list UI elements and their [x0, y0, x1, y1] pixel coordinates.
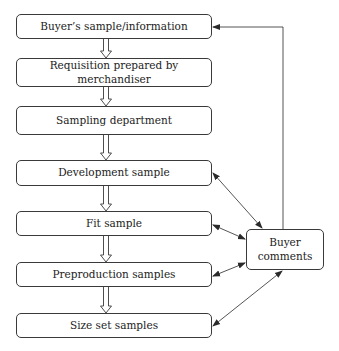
- arrow-development-comments: [213, 173, 262, 228]
- hollow-arrow-5: [101, 236, 112, 262]
- hollow-arrow-1: [101, 39, 112, 58]
- node-requisition: Requisition prepared by merchandiser: [16, 58, 212, 87]
- node-development-sample: Development sample: [16, 160, 212, 186]
- node-sampling-department: Sampling department: [16, 106, 212, 135]
- arrow-fit-comments: [213, 225, 245, 239]
- node-label: Requisition prepared by merchandiser: [17, 59, 211, 85]
- node-label: Preproduction samples: [52, 268, 175, 281]
- hollow-arrow-4: [101, 186, 112, 211]
- node-label: Buyer’s sample/information: [40, 20, 187, 33]
- arrow-sizeset-comments: [213, 271, 282, 326]
- node-preproduction-samples: Preproduction samples: [16, 262, 212, 287]
- node-size-set-samples: Size set samples: [16, 313, 212, 338]
- node-label: Size set samples: [70, 319, 158, 332]
- hollow-arrow-6: [101, 287, 112, 313]
- node-label: Sampling department: [56, 114, 172, 127]
- arrow-preproduction-comments: [213, 263, 245, 276]
- arrow-comments-feedback: [213, 27, 283, 229]
- node-fit-sample: Fit sample: [16, 211, 212, 236]
- node-label-line2: comments: [258, 250, 313, 263]
- node-label: Fit sample: [86, 217, 142, 230]
- node-label: Development sample: [58, 166, 170, 179]
- node-label-line1: Buyer: [269, 236, 301, 249]
- hollow-arrow-2: [101, 87, 112, 106]
- node-buyer-sample: Buyer’s sample/information: [16, 14, 212, 39]
- node-buyer-comments: Buyer comments: [246, 229, 324, 270]
- hollow-arrow-3: [101, 135, 112, 160]
